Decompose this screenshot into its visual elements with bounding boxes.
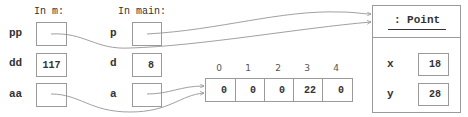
arrow-p-to-point bbox=[147, 12, 371, 34]
arrow-pp-to-point bbox=[51, 22, 371, 48]
arrow-aa-to-array bbox=[51, 93, 204, 112]
reference-arrows bbox=[0, 0, 468, 117]
arrow-a-to-array bbox=[147, 86, 204, 94]
